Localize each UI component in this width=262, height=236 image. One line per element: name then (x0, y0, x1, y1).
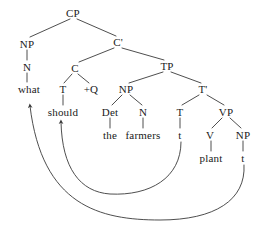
branch-cp-np (30, 19, 70, 37)
terminal-plant: plant (200, 153, 223, 164)
branch-np-det (112, 95, 122, 105)
terminal-should: should (48, 107, 79, 118)
trace-np-object: t (241, 153, 244, 164)
node-c: C (71, 63, 79, 74)
node-np-subject: NP (119, 84, 133, 95)
trace-t-head: t (178, 130, 181, 141)
node-tp: TP (160, 61, 173, 72)
syntax-tree-figure: CP NP C' N C TP what T +Q NP T' should D… (0, 0, 262, 236)
branch-tp-np (129, 72, 163, 83)
node-t-low: T (177, 107, 184, 118)
node-vp: VP (219, 107, 233, 118)
node-t-bar: T' (198, 84, 207, 95)
branch-cbar-c (79, 48, 114, 62)
node-v: V (206, 130, 214, 141)
branch-vp-v (212, 118, 222, 128)
node-det: Det (102, 107, 118, 118)
terminal-what: what (18, 84, 40, 95)
branch-tp-tbar (171, 72, 201, 83)
branch-tbar-vp (207, 95, 224, 105)
branch-vp-np3 (230, 118, 241, 128)
node-np-spec-cp: NP (20, 39, 34, 50)
branch-cbar-tp (122, 48, 164, 60)
node-c-bar: C' (113, 37, 123, 48)
tree-lines-svg (0, 0, 262, 236)
node-q-feature: +Q (84, 84, 99, 95)
branch-cp-cbar (77, 19, 116, 36)
node-cp: CP (66, 8, 80, 19)
terminal-the: the (103, 130, 117, 141)
node-t-in-c: T (60, 84, 67, 95)
terminal-farmers: farmers (126, 130, 161, 141)
node-n-subject: N (139, 107, 147, 118)
node-np-object: NP (236, 130, 250, 141)
movement-arrow-t-to-c (61, 122, 181, 194)
branch-np-n2 (130, 95, 142, 105)
branch-tbar-t (182, 95, 199, 105)
node-n-wh: N (23, 62, 31, 73)
